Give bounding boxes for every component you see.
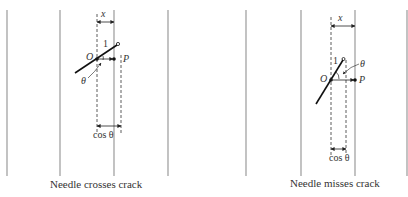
label-x: x xyxy=(101,8,105,19)
crack-lines xyxy=(246,10,407,176)
label-o: O xyxy=(320,73,327,84)
label-theta: θ xyxy=(81,75,86,86)
caption-misses: Needle misses crack xyxy=(290,177,380,189)
label-one: 1 xyxy=(103,38,108,49)
point-p xyxy=(353,78,357,82)
label-x: x xyxy=(338,12,342,23)
label-o: O xyxy=(86,51,93,62)
caption-crosses: Needle crosses crack xyxy=(50,178,142,190)
label-theta: θ xyxy=(360,58,365,69)
dashed-guides xyxy=(331,17,346,155)
label-cos-theta: cos θ xyxy=(93,129,114,140)
label-p: P xyxy=(123,53,129,64)
left-panel xyxy=(7,10,168,176)
label-one: 1 xyxy=(333,55,338,66)
right-panel xyxy=(246,10,407,176)
label-p: P xyxy=(359,74,365,85)
point-p xyxy=(112,57,116,61)
label-cos-theta: cos θ xyxy=(329,152,350,163)
crack-lines xyxy=(7,10,168,176)
dashed-guides xyxy=(97,14,121,134)
needle-diagram xyxy=(0,0,408,197)
